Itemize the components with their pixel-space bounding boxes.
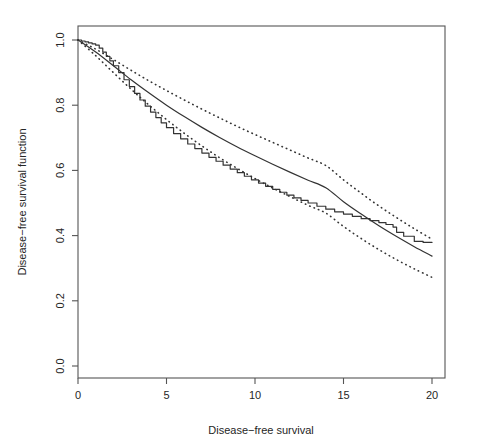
y-tick-label: 1.0 [54, 32, 66, 47]
survival-plot-figure: 05101520 0.00.20.40.60.81.0 Disease−free… [0, 0, 479, 448]
y-axis-title: Disease−free survival function [16, 128, 28, 275]
x-tick-label: 10 [249, 389, 261, 401]
x-axis-title: Disease−free survival [208, 424, 313, 436]
x-tick-label: 5 [163, 389, 169, 401]
y-tick-label: 0.8 [54, 98, 66, 113]
x-tick-label: 15 [337, 389, 349, 401]
y-tick-label: 0.2 [54, 293, 66, 308]
y-tick-label: 0.6 [54, 163, 66, 178]
y-tick-label: 0.0 [54, 358, 66, 373]
y-tick-label: 0.4 [54, 228, 66, 243]
plot-canvas: 05101520 0.00.20.40.60.81.0 Disease−free… [0, 0, 479, 448]
x-tick-label: 0 [75, 389, 81, 401]
x-tick-label: 20 [426, 389, 438, 401]
figure-background [0, 0, 479, 448]
